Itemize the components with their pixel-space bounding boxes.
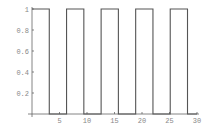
x-tick-label: 10 — [83, 117, 91, 125]
x-tick-label: 25 — [165, 117, 173, 125]
x-tick-label: 30 — [193, 117, 201, 125]
y-tick-label: 0.6 — [16, 48, 29, 56]
square-wave-chart: 51015202530 0.20.40.60.81 — [0, 0, 214, 133]
x-tick-label: 20 — [138, 117, 146, 125]
y-tick-label: 0.4 — [16, 69, 29, 77]
y-tick-label: 1 — [25, 6, 29, 14]
plot-area — [32, 9, 197, 114]
x-tick-label: 5 — [57, 117, 61, 125]
series-line-square-wave — [32, 9, 197, 114]
x-tick-label: 15 — [110, 117, 118, 125]
y-ticks: 0.20.40.60.81 — [16, 6, 34, 98]
y-tick-label: 0.8 — [16, 27, 29, 35]
y-tick-label: 0.2 — [16, 90, 29, 98]
axes — [28, 7, 199, 117]
